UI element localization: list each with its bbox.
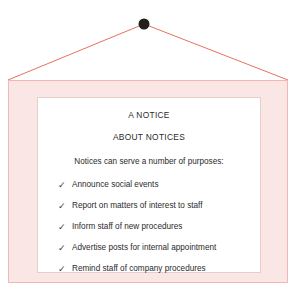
notice-board: A NOTICE ABOUT NOTICES Notices can serve… xyxy=(37,97,261,273)
list-item: ✓ Inform staff of new procedures xyxy=(48,223,250,232)
check-icon: ✓ xyxy=(48,181,72,190)
notice-content: A NOTICE ABOUT NOTICES Notices can serve… xyxy=(38,98,260,272)
nail-dot-icon xyxy=(139,19,150,30)
list-item-label: Announce social events xyxy=(72,181,250,189)
list-item: ✓ Report on matters of interest to staff xyxy=(48,202,250,211)
list-item-label: Remind staff of company procedures xyxy=(72,265,250,273)
notice-title-primary: A NOTICE xyxy=(48,111,250,119)
cord-right-line xyxy=(144,24,288,80)
notice-purpose-list: ✓ Announce social events ✓ Report on mat… xyxy=(48,181,250,274)
check-icon: ✓ xyxy=(48,223,72,232)
notice-lead-text: Notices can serve a number of purposes: xyxy=(48,158,250,166)
notice-title-secondary: ABOUT NOTICES xyxy=(48,133,250,141)
list-item: ✓ Announce social events xyxy=(48,181,250,190)
list-item-label: Inform staff of new procedures xyxy=(72,223,250,231)
cord-left-line xyxy=(8,24,144,80)
check-icon: ✓ xyxy=(48,244,72,253)
check-icon: ✓ xyxy=(48,202,72,211)
check-icon: ✓ xyxy=(48,265,72,274)
notice-frame: A NOTICE ABOUT NOTICES Notices can serve… xyxy=(8,80,288,283)
list-item-label: Advertise posts for internal appointment xyxy=(72,244,250,252)
list-item-label: Report on matters of interest to staff xyxy=(72,202,250,210)
notice-scene: A NOTICE ABOUT NOTICES Notices can serve… xyxy=(0,0,297,289)
list-item: ✓ Advertise posts for internal appointme… xyxy=(48,244,250,253)
list-item: ✓ Remind staff of company procedures xyxy=(48,265,250,274)
